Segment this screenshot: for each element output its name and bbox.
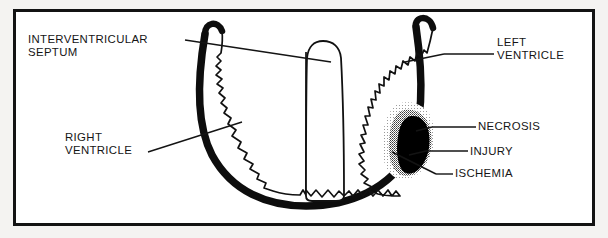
label-necrosis: NECROSIS [478,120,540,133]
rv-wall-top-cap [205,24,222,34]
leader-right-ventricle [148,122,242,152]
label-left-ventricle: LEFT VENTRICLE [497,36,564,62]
label-injury: INJURY [470,145,513,158]
label-right-ventricle: RIGHT VENTRICLE [65,131,132,157]
label-interventricular-septum: INTERVENTRICULAR SEPTUM [28,33,148,59]
septum-outline [306,41,344,201]
figure-root: INTERVENTRICULAR SEPTUM LEFT VENTRICLE R… [0,0,608,238]
label-ischemia: ISCHEMIA [455,167,513,180]
interventricular-septum-structure [306,41,344,201]
infarct-zone-group [382,102,434,179]
lv-wall-top-cap [416,18,433,28]
